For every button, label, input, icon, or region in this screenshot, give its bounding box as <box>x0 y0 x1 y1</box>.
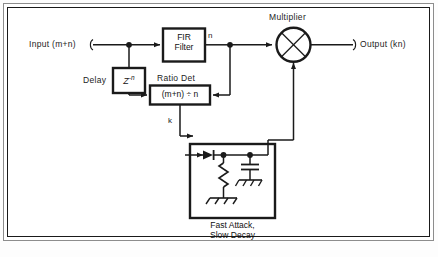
diagram-page: Input (m+n) Output (kn) n k FIR Filter D… <box>0 0 438 257</box>
input-bracket-icon <box>90 40 93 51</box>
envelope-caption-line2: Slow Decay <box>190 231 275 241</box>
delay-symbol: Z-n <box>113 74 145 86</box>
ratio-det-expression: (m+n) ÷ n <box>150 90 210 100</box>
envelope-detector-caption: Fast Attack, Slow Decay <box>190 221 275 240</box>
fir-filter-label-line2: Filter <box>163 43 205 53</box>
fir-output-signal-label: n <box>208 31 213 40</box>
delay-symbol-exponent: -n <box>129 74 135 81</box>
delay-caption: Delay <box>83 76 106 86</box>
output-label: Output (kn) <box>360 40 406 50</box>
multiplier-caption: Multiplier <box>269 13 306 23</box>
input-label: Input (m+n) <box>29 40 76 50</box>
fir-filter-label: FIR Filter <box>163 33 205 52</box>
ratio-det-caption: Ratio Det <box>157 74 195 84</box>
output-bracket-icon <box>353 40 356 51</box>
ratio-output-signal-label: k <box>168 116 172 125</box>
